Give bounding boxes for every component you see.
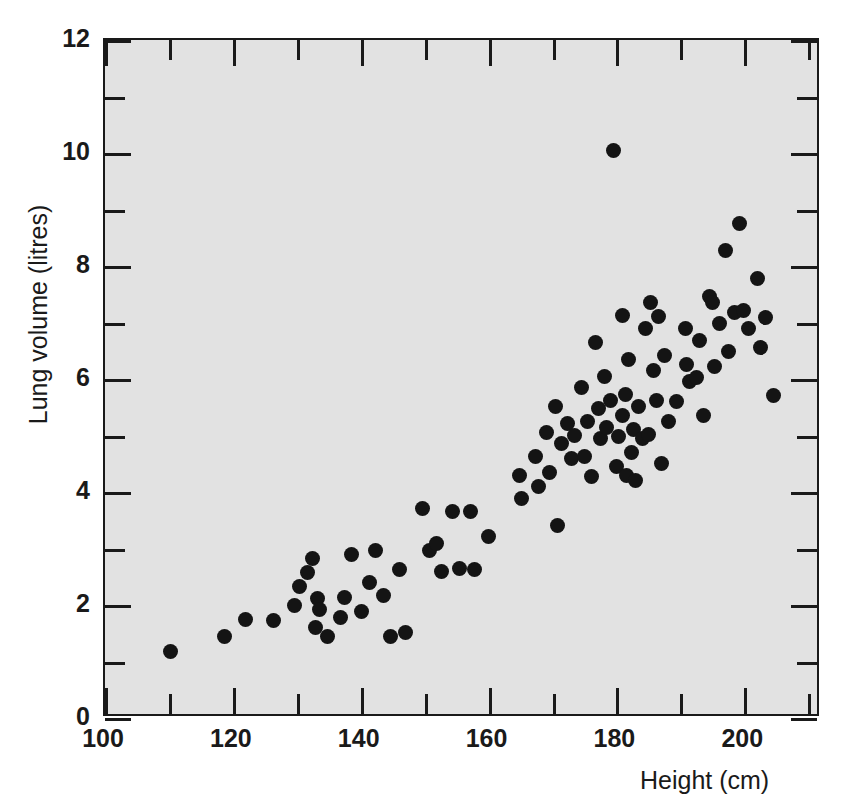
data-point bbox=[376, 588, 391, 603]
data-point bbox=[481, 529, 496, 544]
data-point bbox=[615, 308, 630, 323]
data-point bbox=[333, 610, 348, 625]
x-axis-tick-label: 160 bbox=[442, 726, 532, 751]
y-axis-minor-tick bbox=[105, 549, 125, 552]
data-point bbox=[588, 335, 603, 350]
x-axis-top-minor-tick bbox=[680, 40, 683, 60]
data-point bbox=[580, 414, 595, 429]
x-axis-tick-label: 120 bbox=[186, 726, 276, 751]
x-axis-tick-label: 100 bbox=[58, 726, 148, 751]
data-point bbox=[669, 394, 684, 409]
data-point bbox=[705, 295, 720, 310]
data-point bbox=[606, 143, 621, 158]
data-point bbox=[621, 352, 636, 367]
data-point bbox=[300, 565, 315, 580]
data-point bbox=[287, 598, 302, 613]
y-axis-right-minor-tick bbox=[797, 662, 817, 665]
y-axis-right-major-tick bbox=[791, 266, 817, 269]
x-axis-minor-tick bbox=[297, 694, 300, 714]
data-point bbox=[753, 340, 768, 355]
data-point bbox=[312, 602, 327, 617]
y-axis-right-major-tick bbox=[791, 153, 817, 156]
data-points-layer bbox=[105, 40, 817, 714]
data-point bbox=[758, 310, 773, 325]
data-point bbox=[692, 333, 707, 348]
y-axis-title: Lung volume (litres) bbox=[24, 115, 53, 515]
y-axis-major-tick bbox=[105, 379, 131, 382]
data-point bbox=[603, 393, 618, 408]
data-point bbox=[398, 625, 413, 640]
y-axis-tick-label: 0 bbox=[20, 704, 90, 729]
data-point bbox=[641, 427, 656, 442]
data-point bbox=[741, 321, 756, 336]
data-point bbox=[654, 456, 669, 471]
data-point bbox=[528, 449, 543, 464]
x-axis-top-minor-tick bbox=[808, 40, 811, 60]
data-point bbox=[618, 387, 633, 402]
x-axis-major-tick bbox=[105, 688, 108, 714]
y-axis-right-minor-tick bbox=[797, 97, 817, 100]
data-point bbox=[678, 321, 693, 336]
data-point bbox=[542, 465, 557, 480]
data-point bbox=[550, 518, 565, 533]
data-point bbox=[624, 445, 639, 460]
data-point bbox=[531, 479, 546, 494]
x-axis-top-major-tick bbox=[489, 40, 492, 66]
y-axis-minor-tick bbox=[105, 210, 125, 213]
data-point bbox=[567, 428, 582, 443]
x-axis-top-major-tick bbox=[105, 40, 108, 66]
plot-area bbox=[103, 38, 819, 716]
data-point bbox=[631, 399, 646, 414]
data-point bbox=[368, 543, 383, 558]
data-point bbox=[721, 344, 736, 359]
x-axis-top-minor-tick bbox=[169, 40, 172, 60]
data-point bbox=[392, 562, 407, 577]
y-axis-right-major-tick bbox=[791, 379, 817, 382]
data-point bbox=[651, 309, 666, 324]
x-axis-top-major-tick bbox=[744, 40, 747, 66]
x-axis-minor-tick bbox=[808, 694, 811, 714]
data-point bbox=[463, 504, 478, 519]
data-point bbox=[429, 536, 444, 551]
x-axis-major-tick bbox=[616, 688, 619, 714]
x-axis-major-tick bbox=[233, 688, 236, 714]
data-point bbox=[611, 429, 626, 444]
scatter-plot-figure: 024681012 100120140160180200 Lung volume… bbox=[0, 0, 859, 808]
data-point bbox=[649, 393, 664, 408]
y-axis-minor-tick bbox=[105, 436, 125, 439]
data-point bbox=[646, 363, 661, 378]
x-axis-minor-tick bbox=[680, 694, 683, 714]
y-axis-right-minor-tick bbox=[797, 323, 817, 326]
x-axis-tick-label: 140 bbox=[314, 726, 404, 751]
y-axis-tick-label: 2 bbox=[20, 591, 90, 616]
y-axis-major-tick bbox=[105, 153, 131, 156]
x-axis-tick-label: 180 bbox=[569, 726, 659, 751]
y-axis-major-tick bbox=[105, 266, 131, 269]
y-axis-right-major-tick bbox=[791, 718, 817, 721]
y-axis-minor-tick bbox=[105, 323, 125, 326]
y-axis-minor-tick bbox=[105, 97, 125, 100]
data-point bbox=[434, 564, 449, 579]
x-axis-minor-tick bbox=[553, 694, 556, 714]
x-axis-top-minor-tick bbox=[297, 40, 300, 60]
x-axis-top-minor-tick bbox=[425, 40, 428, 60]
data-point bbox=[615, 408, 630, 423]
data-point bbox=[657, 348, 672, 363]
x-axis-top-major-tick bbox=[616, 40, 619, 66]
data-point bbox=[548, 399, 563, 414]
data-point bbox=[452, 561, 467, 576]
data-point bbox=[217, 629, 232, 644]
data-point bbox=[266, 613, 281, 628]
data-point bbox=[305, 551, 320, 566]
data-point bbox=[238, 612, 253, 627]
y-axis-right-minor-tick bbox=[797, 436, 817, 439]
data-point bbox=[689, 370, 704, 385]
y-axis-major-tick bbox=[105, 718, 131, 721]
data-point bbox=[292, 579, 307, 594]
x-axis-minor-tick bbox=[169, 694, 172, 714]
data-point bbox=[766, 388, 781, 403]
data-point bbox=[354, 604, 369, 619]
data-point bbox=[584, 469, 599, 484]
data-point bbox=[574, 380, 589, 395]
y-axis-major-tick bbox=[105, 492, 131, 495]
